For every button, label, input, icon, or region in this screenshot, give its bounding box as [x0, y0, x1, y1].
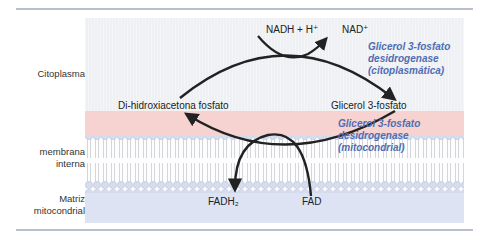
- label-cytoplasm: Citoplasma: [37, 68, 85, 80]
- nadh-to-nad-arrow: [258, 36, 325, 57]
- nadh-label: NADH + H⁺: [266, 24, 318, 35]
- g3p-label: Glicerol 3-fosfato: [331, 100, 407, 111]
- label-inner-membrane: membrana interna: [40, 146, 85, 170]
- enzyme-cytoplasmic: Glicerol 3-fosfato desidrogenase (citopl…: [368, 41, 450, 77]
- diagram-panel: NADH + H⁺ NAD⁺ Di-hidroxiacetona fosfato…: [85, 18, 464, 223]
- dhap-label: Di-hidroxiacetona fosfato: [118, 100, 229, 111]
- label-matrix: Matriz mitocondrial: [34, 193, 85, 217]
- top-rule: [16, 8, 473, 10]
- nad-label: NAD⁺: [342, 24, 368, 35]
- enzyme-mitochondrial: Glicerol 3-fosfato desidrogenase (mitoco…: [338, 118, 420, 154]
- fadh2-label: FADH₂: [208, 196, 239, 207]
- fad-label: FAD: [302, 196, 321, 207]
- bottom-rule: [16, 229, 473, 231]
- dhap-to-g3p-arrow: [180, 56, 393, 99]
